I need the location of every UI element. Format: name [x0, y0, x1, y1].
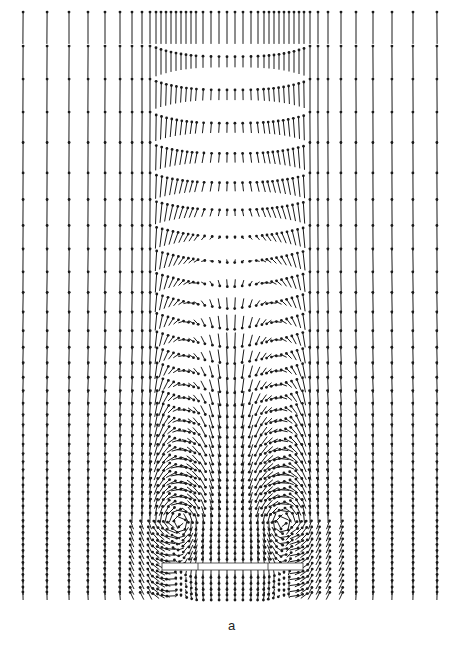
plate-outline — [162, 563, 303, 570]
quiver-plot — [0, 0, 463, 652]
velocity-arrows — [22, 11, 439, 602]
vector-field-figure: a — [0, 0, 463, 652]
panel-label: a — [0, 618, 463, 633]
